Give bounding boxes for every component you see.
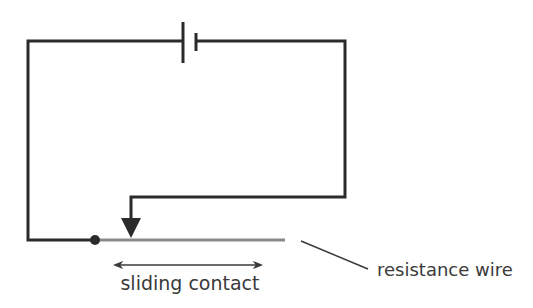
leader-line xyxy=(301,241,368,269)
sliding-contact-label: sliding contact xyxy=(120,272,259,294)
resistance-wire-label: resistance wire xyxy=(377,259,513,280)
junction-dot xyxy=(90,235,100,245)
wire-right xyxy=(131,41,345,222)
sliding-contact-arrow-icon xyxy=(121,218,141,238)
circuit-diagram: sliding contact resistance wire xyxy=(0,0,533,308)
wire-left xyxy=(28,41,183,240)
battery-icon xyxy=(183,22,196,63)
